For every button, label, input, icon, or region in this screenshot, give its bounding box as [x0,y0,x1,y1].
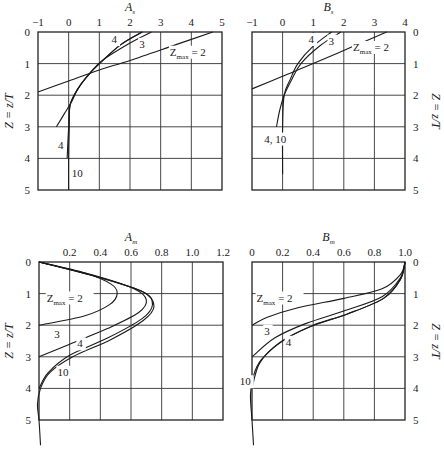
x-tick-label: 1.0 [185,246,199,258]
x-tick-label: 3 [158,16,164,28]
y-tick-label: 4 [25,152,31,164]
x-tick-label: −1 [246,16,258,28]
curve-label: 3 [54,328,60,340]
x-tick-label: 0.2 [276,246,290,258]
curve-label: 10 [240,375,252,387]
y-tick-label: 5 [413,414,419,426]
y-tick-label: 1 [25,58,31,70]
y-axis-label: Z = z/T [2,92,16,129]
y-tick-label: 3 [413,351,419,363]
panel-bm: 00.20.40.60.81.0012345BmZ = z/TZmax = 23… [239,230,443,445]
curve-label: 4 [286,336,292,348]
figure: −1012345012345AsZ = z/T43Zmax = 2410−101… [0,0,444,463]
x-tick-label: 0.6 [337,246,351,258]
x-tick-label: 0 [249,246,255,258]
curve-zmax-10 [69,32,143,190]
x-tick-label: 0.4 [93,246,107,258]
chart-title: Am [124,230,137,246]
y-tick-label: 0 [413,256,419,268]
y-tick-label: 1 [26,288,32,300]
plot-frame [252,32,405,190]
y-tick-label: 5 [26,414,32,426]
curve-label: 4, 10 [264,133,287,145]
curve-label: 3 [139,38,145,50]
y-tick-label: 2 [413,319,419,331]
x-tick-label: 4 [402,16,408,28]
y-tick-label: 3 [413,121,419,133]
panel-am: 0.20.40.60.81.01.2012345AmZ = z/TZmax = … [2,230,230,445]
x-tick-label: 3 [372,16,378,28]
x-tick-label: 1.0 [398,246,412,258]
panel-as: −1012345012345AsZ = z/T43Zmax = 2410 [2,0,225,196]
y-axis-label: Z = z/T [2,322,16,359]
x-tick-label: 4 [189,16,195,28]
x-tick-label: 1.2 [216,246,230,258]
chart-title: Bm [322,230,334,246]
y-tick-label: 1 [413,288,419,300]
x-tick-label: 5 [219,16,225,28]
curve-label: 4 [309,33,315,45]
x-tick-label: 0 [280,16,286,28]
curve-label: 4 [58,139,64,151]
x-tick-label: 0 [66,16,72,28]
x-tick-label: 0.8 [368,246,382,258]
curve-label: 3 [264,325,270,337]
x-tick-label: 2 [127,16,133,28]
y-tick-label: 3 [26,351,32,363]
y-tick-label: 2 [25,89,31,101]
y-tick-label: 0 [25,26,31,38]
curve-label: 4 [112,33,118,45]
y-tick-label: 1 [413,58,419,70]
y-tick-label: 5 [413,184,419,196]
x-tick-label: 0.4 [306,246,320,258]
x-tick-label: 0.6 [124,246,138,258]
x-tick-label: 0.8 [155,246,169,258]
x-tick-label: 1 [310,16,316,28]
chart-title: As [124,0,135,16]
chart-title: Bs [323,0,333,16]
y-tick-label: 5 [25,184,31,196]
curve-zmax-3 [56,32,151,127]
x-tick-label: 1 [97,16,103,28]
curve-label: 10 [57,366,69,378]
curve-label: 3 [329,35,335,47]
y-axis-label: Z = z/T [429,323,443,360]
curve-zmax-4-10 [282,32,331,174]
y-tick-label: 4 [413,382,419,394]
y-tick-label: 2 [413,89,419,101]
y-tick-label: 3 [25,121,31,133]
y-tick-label: 4 [413,152,419,164]
x-tick-label: 2 [341,16,347,28]
x-tick-label: −1 [32,16,44,28]
curve-label: 10 [72,167,84,179]
curve-label: 4 [77,337,83,349]
y-tick-label: 4 [26,382,32,394]
panel-bs: −101234012345BsZ = z/T43Zmax = 24, 10 [246,0,443,196]
y-axis-label: Z = z/T [429,93,443,130]
curve-zmax-3 [252,262,405,357]
y-tick-label: 2 [26,319,32,331]
x-tick-label: 0.2 [63,246,77,258]
curve-zmax-10 [37,262,154,445]
plot-frame [252,262,405,420]
y-tick-label: 0 [26,256,32,268]
y-tick-label: 0 [413,26,419,38]
